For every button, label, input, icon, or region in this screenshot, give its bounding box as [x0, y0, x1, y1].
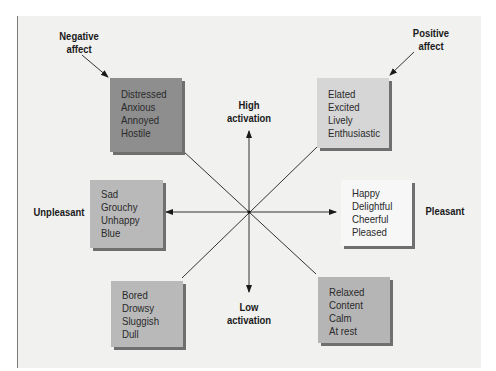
word: Calm [329, 312, 385, 325]
label-line: Negative [48, 30, 111, 43]
word: Annoyed [121, 114, 177, 127]
high-activation-label: High activation [218, 99, 281, 125]
word: Drowsy [122, 302, 178, 315]
pleasant-label: Pleasant [421, 205, 470, 218]
word: Anxious [121, 101, 177, 114]
label-line: activation [218, 112, 281, 125]
word: Hostile [121, 127, 177, 140]
word: Pleased [352, 226, 407, 239]
negative-affect-label: Negative affect [48, 30, 111, 56]
label-line: affect [48, 43, 111, 56]
center-point [247, 210, 250, 213]
word: Happy [352, 187, 407, 200]
word: Blue [101, 227, 158, 240]
box-positive-high-activation: Elated Excited Lively Enthusiastic [317, 78, 389, 148]
word: Excited [328, 101, 384, 114]
word: Bored [122, 289, 178, 302]
negative-affect-arrow [82, 55, 108, 77]
box-unpleasant: Sad Grouchy Unhappy Blue [90, 180, 163, 248]
label-line: Low [218, 301, 281, 314]
word: At rest [329, 325, 385, 338]
word: Distressed [121, 88, 177, 101]
positive-affect-arrow [390, 52, 414, 75]
word: Unhappy [101, 214, 158, 227]
label-line: activation [218, 314, 281, 327]
box-low-activation-pleasant: Relaxed Content Calm At rest [318, 277, 390, 343]
box-low-activation-unpleasant: Bored Drowsy Sluggish Dull [111, 281, 183, 347]
low-activation-label: Low activation [218, 301, 281, 327]
unpleasant-label: Unpleasant [31, 206, 87, 219]
box-pleasant: Happy Delightful Cheerful Pleased [341, 180, 412, 246]
word: Delightful [352, 200, 407, 213]
word: Enthusiastic [328, 127, 384, 140]
word: Dull [122, 328, 178, 341]
label-line: Positive [400, 27, 463, 40]
word: Elated [328, 88, 384, 101]
positive-affect-label: Positive affect [400, 27, 463, 53]
label-line: affect [400, 40, 463, 53]
label-line: High [218, 99, 281, 112]
word: Sad [101, 188, 158, 201]
word: Grouchy [101, 201, 158, 214]
box-negative-high-activation: Distressed Anxious Annoyed Hostile [110, 78, 182, 152]
word: Cheerful [352, 213, 407, 226]
word: Relaxed [329, 286, 385, 299]
word: Sluggish [122, 315, 178, 328]
word: Content [329, 299, 385, 312]
word: Lively [328, 114, 384, 127]
